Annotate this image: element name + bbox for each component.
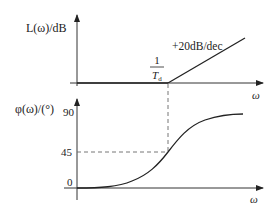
bode-diagram: L(ω)/dB ω +20dB/dec 1 Td φ(ω)/(°) 90 45 … <box>0 0 279 221</box>
phase-tick-45: 45 <box>61 146 73 158</box>
phase-x-label: ω <box>250 193 258 205</box>
magnitude-plot: L(ω)/dB ω +20dB/dec 1 Td <box>26 15 263 101</box>
magnitude-x-label: ω <box>252 89 260 101</box>
phase-y-label: φ(ω)/(°) <box>15 102 54 116</box>
phase-plot: φ(ω)/(°) 90 45 0 ω <box>15 99 263 205</box>
slope-label: +20dB/dec <box>172 40 223 52</box>
corner-frequency-label: 1 Td <box>150 54 164 83</box>
corner-numerator: 1 <box>154 54 160 66</box>
corner-denominator: Td <box>152 69 162 83</box>
magnitude-y-label: L(ω)/dB <box>26 21 67 35</box>
phase-curve <box>77 114 243 188</box>
phase-tick-0: 0 <box>67 176 73 188</box>
phase-tick-90: 90 <box>63 106 75 118</box>
